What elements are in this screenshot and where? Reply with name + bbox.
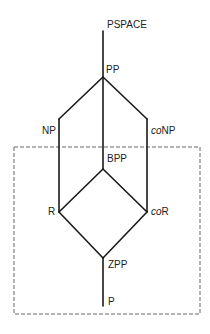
edge-cor-zpp [103, 212, 147, 258]
node-label-cor-prefix: co [151, 206, 162, 217]
node-label-p: P [108, 296, 115, 307]
edge-pp-conp [103, 77, 147, 119]
node-label-np: NP [42, 125, 56, 136]
node-label-cor: coR [151, 206, 169, 217]
node-label-bpp: BPP [107, 153, 127, 164]
node-label-pspace: PSPACE [107, 19, 147, 30]
complexity-diagram: PSPACE PP NP coNP BPP R coR ZPP P [0, 0, 210, 334]
node-label-conp-suffix: NP [162, 125, 176, 136]
node-label-pp: PP [106, 64, 120, 75]
node-label-conp-prefix: co [151, 125, 162, 136]
node-label-zpp: ZPP [108, 259, 128, 270]
node-label-r: R [48, 206, 55, 217]
edge-r-zpp [59, 212, 103, 258]
node-label-cor-suffix: R [162, 206, 169, 217]
node-label-conp: coNP [151, 125, 176, 136]
edge-pp-np [59, 77, 103, 119]
edge-bpp-r [59, 169, 103, 212]
edge-bpp-cor [103, 169, 147, 212]
